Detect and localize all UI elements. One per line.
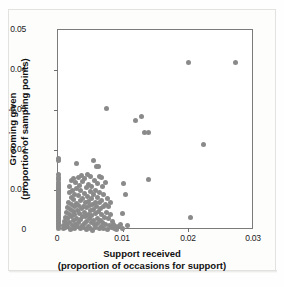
- x-axis-title-sub: (proportion of occasions for support): [0, 260, 284, 272]
- scatter-point: [108, 200, 113, 205]
- scatter-point: [146, 177, 151, 182]
- scatter-point: [74, 161, 79, 166]
- x-tick-label: 0.01: [102, 233, 142, 243]
- scatter-point: [188, 215, 193, 220]
- x-tick-label: 0.02: [168, 233, 208, 243]
- x-axis-title-main: Support received: [0, 248, 284, 260]
- scatter-point: [108, 212, 113, 217]
- scatter-point: [233, 60, 238, 65]
- scatter-point: [146, 130, 151, 135]
- scatter-point: [56, 156, 61, 161]
- scatter-point: [91, 158, 96, 163]
- scatter-point: [121, 181, 126, 186]
- scatter-point: [201, 142, 206, 147]
- y-axis-title-sub: (proportion of sampling points): [19, 29, 31, 229]
- y-axis-title-main: Grooming given: [7, 29, 19, 229]
- scatter-point: [133, 118, 138, 123]
- x-axis-title: Support received (proportion of occasion…: [0, 248, 284, 272]
- x-tick-label: 0.03: [233, 233, 273, 243]
- x-tick-label: 0: [37, 233, 77, 243]
- scatter-point: [103, 180, 108, 185]
- scatter-point: [96, 164, 101, 169]
- scatter-point: [139, 114, 144, 119]
- scatter-point: [99, 175, 104, 180]
- scatter-point: [125, 223, 130, 228]
- figure-container: 0.05 0.04 0.03 0.02 0.01 0 0 0.01 0.02 0…: [0, 0, 284, 287]
- scatter-point: [82, 176, 87, 181]
- scatter-point: [123, 192, 128, 197]
- scatter-point: [104, 106, 109, 111]
- scatter-point: [56, 172, 61, 177]
- scatter-point: [186, 60, 191, 65]
- scatter-plot-area: [57, 29, 253, 229]
- data-points-layer: [58, 30, 252, 228]
- scatter-point: [100, 184, 105, 189]
- scatter-point: [120, 211, 125, 216]
- x-tick-mark: [188, 228, 189, 232]
- scatter-point: [106, 204, 111, 209]
- y-axis-title: Grooming given (proportion of sampling p…: [7, 29, 31, 229]
